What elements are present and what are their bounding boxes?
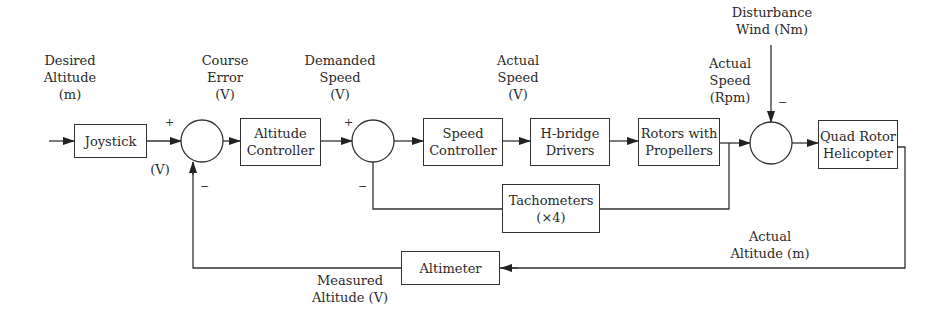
summing-junction-2: [352, 120, 394, 162]
disturbance-wind-label: Disturbance Wind (Nm): [725, 4, 819, 38]
sum1-minus-sign: −: [200, 180, 209, 193]
joystick-label: Joystick: [85, 133, 137, 150]
altitude-controller-block: Altitude Controller: [240, 118, 321, 166]
altimeter-block: Altimeter: [401, 251, 500, 285]
tachometers-label-1: Tachometers: [509, 192, 594, 209]
sum1-plus-sign: +: [165, 116, 174, 129]
summing-junction-3: [750, 122, 792, 164]
summing-junction-1: [181, 120, 223, 162]
speed-controller-label-1: Speed: [443, 125, 484, 142]
altimeter-label: Altimeter: [419, 260, 481, 277]
demanded-speed-label: Demanded Speed (V): [300, 52, 380, 103]
sum2-minus-sign: −: [358, 180, 367, 193]
sum3-minus-sign: −: [778, 96, 787, 109]
desired-altitude-label: Desired Altitude (m): [30, 52, 110, 103]
joystick-output-label: (V): [145, 161, 175, 178]
quad-label-1: Quad Rotor: [820, 128, 896, 145]
joystick-block: Joystick: [74, 124, 147, 158]
tachometers-label-2: (×4): [536, 209, 565, 226]
tachometer-to-sum2-line: [373, 162, 502, 209]
altitude-controller-label-2: Controller: [247, 142, 315, 159]
rotors-label-1: Rotors with: [641, 125, 718, 142]
rotors-block: Rotors with Propellers: [638, 118, 720, 166]
rotors-label-2: Propellers: [645, 142, 713, 159]
speed-controller-label-2: Controller: [429, 142, 497, 159]
hbridge-drivers-block: H-bridge Drivers: [530, 118, 610, 166]
quad-rotor-helicopter-block: Quad Rotor Helicopter: [818, 120, 898, 169]
actual-altitude-label: Actual Altitude (m): [720, 228, 820, 262]
actual-speed-v-label: Actual Speed (V): [478, 52, 558, 103]
tachometers-block: Tachometers (×4): [502, 184, 600, 233]
altitude-controller-label-1: Altitude: [254, 125, 307, 142]
course-error-label: Course Error (V): [185, 52, 265, 103]
actual-speed-rpm-label: Actual Speed (Rpm): [705, 55, 755, 106]
hbridge-label-1: H-bridge: [541, 125, 600, 142]
altitude-control-block-diagram: Joystick Altitude Controller Speed Contr…: [0, 0, 950, 315]
quad-label-2: Helicopter: [823, 145, 893, 162]
measured-altitude-label: Measured Altitude (V): [300, 272, 400, 306]
measured-altitude-line: [193, 168, 401, 268]
speed-controller-block: Speed Controller: [423, 118, 503, 166]
sum2-plus-sign: +: [344, 116, 353, 129]
hbridge-label-2: Drivers: [546, 142, 595, 159]
